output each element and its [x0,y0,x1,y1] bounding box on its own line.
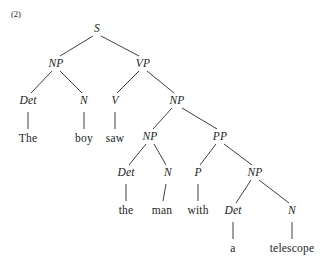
edge-np1-det1 [31,71,52,93]
edge-np4-det3 [236,180,251,203]
leaf-a: a [230,243,235,255]
edge-s-np1 [60,36,93,56]
edge-vp-v [117,71,139,93]
node-det-the-upper: Det [19,95,36,107]
leaf-with: with [187,205,208,217]
node-n-boy: N [80,95,88,107]
node-np-subject: NP [48,58,63,70]
node-vp: VP [136,58,150,70]
node-n-man: N [164,167,172,179]
leaf-the-lower: the [119,205,134,217]
tree-edges [0,0,328,270]
node-det-the-lower: Det [117,167,134,179]
edge-s-vp [101,36,139,56]
leaf-telescope: telescope [270,243,315,255]
node-np-man: NP [142,131,157,143]
node-p-with: P [194,167,201,179]
node-pp: PP [213,131,227,143]
node-np-telescope: NP [247,167,262,179]
leaf-the-upper: The [19,133,37,145]
edge-np2-np3 [153,108,172,129]
edge-np3-det2 [129,144,146,165]
edge-n2-man [163,184,166,201]
edge-pp-np4 [224,144,252,165]
edge-vp-np2 [147,71,174,93]
node-np-object: NP [169,95,184,107]
node-s: S [94,23,100,35]
leaf-boy: boy [75,133,93,145]
node-det-a: Det [224,205,241,217]
edge-np2-pp [182,108,217,129]
edge-np1-n1 [60,71,82,93]
leaf-saw: saw [106,133,125,145]
node-v-saw: V [111,95,118,107]
syntax-tree-figure: (2) S NP VP Det N V NP The boy saw NP PP… [0,0,328,270]
edge-np4-n3 [259,180,289,203]
edge-np3-n2 [154,144,166,165]
edge-pp-p [200,144,216,165]
leaf-man: man [152,205,172,217]
node-n-telescope: N [288,205,296,217]
